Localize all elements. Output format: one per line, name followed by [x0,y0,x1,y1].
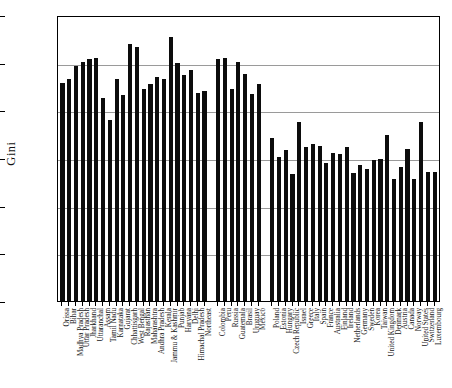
x-tick-mark [82,302,83,306]
x-tick-mark [380,302,381,306]
gini-bar-chart-figure: Gini 0.00.10.20.30.40.50.6 OrissaBiharMa… [0,0,452,388]
x-tick-mark [346,302,347,306]
x-tick-mark [116,302,117,306]
bar [345,147,349,301]
x-tick-mark [278,302,279,306]
bar-series [58,17,439,301]
x-tick-mark [339,302,340,306]
bar [67,79,71,301]
bar [378,159,382,301]
bar [162,79,166,301]
bar [115,79,119,301]
x-tick-mark [386,302,387,306]
bar [365,169,369,301]
bar [412,179,416,301]
x-tick-mark [177,302,178,306]
bar [290,174,294,301]
bar [182,75,186,301]
x-tick-mark [237,302,238,306]
x-tick-mark [434,302,435,306]
x-tick-mark [258,302,259,306]
y-tick-mark [0,64,5,65]
x-tick-mark [136,302,137,306]
x-tick-mark [244,302,245,306]
bar [223,58,227,301]
bar [338,154,342,301]
bar [101,98,105,301]
bar [426,172,430,301]
bar [128,44,132,301]
y-tick-mark [0,254,5,255]
x-tick-mark [251,302,252,306]
x-tick-mark [305,302,306,306]
bar [175,63,179,301]
x-tick-mark [359,302,360,306]
bar [142,89,146,301]
x-tick-mark [170,302,171,306]
bar [250,94,254,301]
x-tick-mark [271,302,272,306]
bar [169,37,173,301]
bar [324,163,328,301]
x-tick-mark [109,302,110,306]
x-tick-mark [420,302,421,306]
bar [216,59,220,301]
x-tick-mark [102,302,103,306]
x-tick-mark [231,302,232,306]
bar [202,91,206,301]
x-axis: OrissaBiharMadhya PradeshUttar PradeshJh… [57,302,440,388]
plot-area [57,16,440,302]
x-tick-mark [325,302,326,306]
x-tick-mark [312,302,313,306]
bar [108,120,112,301]
x-tick-label: Northeast [206,308,213,336]
bar [81,62,85,301]
y-tick-mark [0,207,5,208]
x-tick-mark [393,302,394,306]
x-tick-mark [298,302,299,306]
bar [297,122,301,301]
bar [270,138,274,301]
x-tick-mark [190,302,191,306]
y-tick-mark [0,111,5,112]
bar [433,172,437,301]
y-tick-mark [0,16,5,17]
bar [419,122,423,301]
x-tick-mark [89,302,90,306]
x-tick-mark [143,302,144,306]
bar [304,147,308,301]
x-tick-mark [204,302,205,306]
x-tick-mark [400,302,401,306]
x-tick-label: Mexico [260,308,267,330]
x-tick-mark [156,302,157,306]
bar [284,150,288,301]
bar [385,135,389,301]
y-axis: Gini 0.00.10.20.30.40.50.6 [0,0,57,320]
y-axis-title: Gini [4,124,19,184]
bar [74,66,78,301]
x-tick-mark [373,302,374,306]
x-tick-mark [95,302,96,306]
bar [311,144,315,301]
y-tick-mark [0,302,5,303]
x-tick-mark [352,302,353,306]
x-tick-mark [197,302,198,306]
x-tick-mark [122,302,123,306]
bar [189,70,193,301]
bar [399,167,403,301]
bar [243,74,247,301]
bar [392,179,396,301]
x-tick-mark [319,302,320,306]
y-tick-mark [0,159,5,160]
x-tick-mark [285,302,286,306]
bar [318,146,322,301]
x-tick-mark [217,302,218,306]
bar [351,173,355,301]
x-tick-mark [292,302,293,306]
bar [331,153,335,301]
bar [148,84,152,301]
bar [405,149,409,301]
x-tick-label: Luxembourg [436,308,443,345]
x-tick-mark [407,302,408,306]
x-tick-mark [61,302,62,306]
